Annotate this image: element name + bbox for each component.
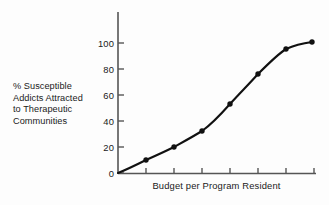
y-tick-marks — [118, 43, 124, 173]
data-point-6 — [283, 46, 288, 51]
data-series-line — [118, 42, 312, 173]
data-point-2 — [171, 144, 176, 149]
x-tick-marks — [146, 168, 314, 174]
x-axis-label: Budget per Program Resident — [118, 180, 315, 191]
data-point-7 — [309, 39, 314, 44]
data-point-5 — [255, 71, 260, 76]
data-point-4 — [227, 101, 232, 106]
chart-plot-svg — [0, 0, 329, 205]
data-point-markers — [143, 39, 314, 162]
chart-figure: % Susceptible Addicts Attracted to Thera… — [0, 0, 329, 205]
data-point-3 — [199, 128, 204, 133]
data-point-1 — [143, 157, 148, 162]
